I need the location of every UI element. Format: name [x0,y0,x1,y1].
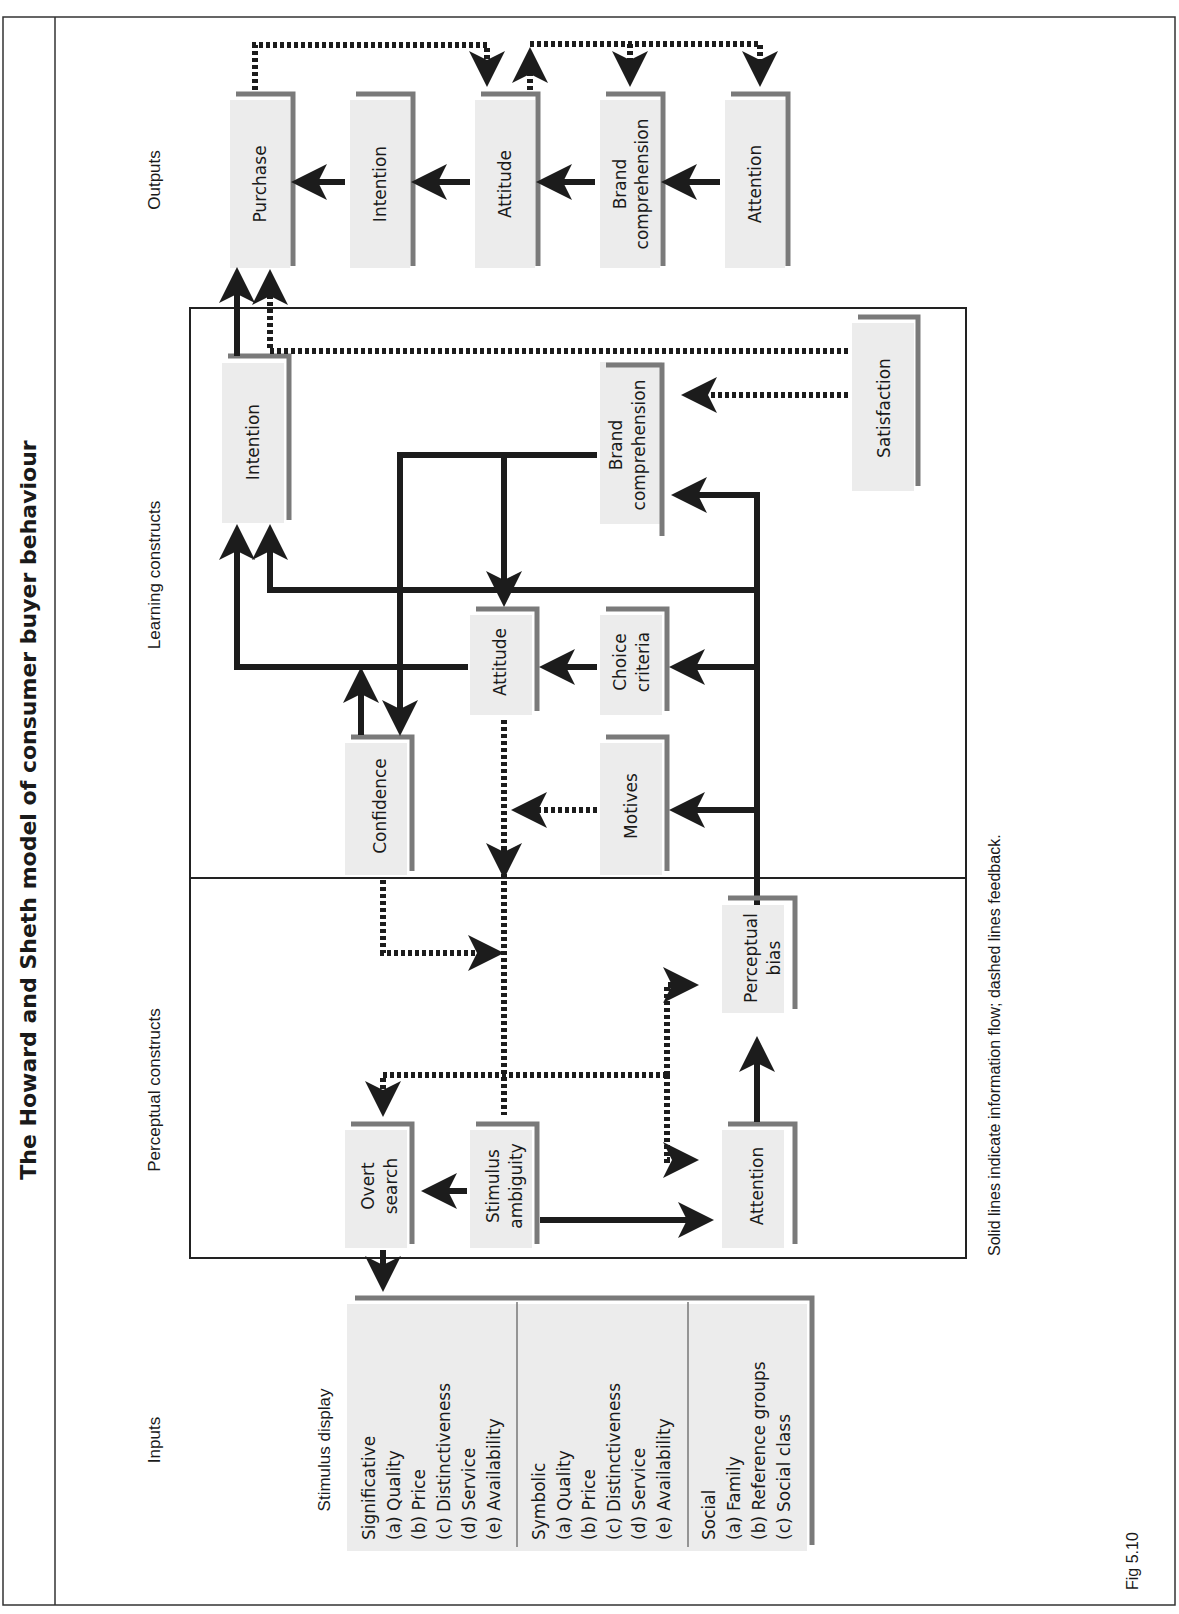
svg-text:Confidence: Confidence [370,758,390,854]
stimulus-display-heading: Stimulus display [315,1388,334,1511]
output-node-purchase: Purchase [230,94,293,268]
svg-text:search: search [381,1158,401,1214]
svg-text:Brand: Brand [610,159,630,210]
perceptual-node-perceptual-bias: Perceptual bias [722,898,795,1013]
feedback-to-attention [530,44,760,78]
svg-text:(b) Price: (b) Price [579,1469,599,1540]
svg-text:(d) Service: (d) Service [459,1448,479,1540]
section-label-perceptual: Perceptual constructs [145,1008,164,1171]
svg-text:(c) Distinctiveness: (c) Distinctiveness [604,1383,624,1540]
feedback-to-attention [667,1075,690,1160]
perceptual-node-stimulus-ambiguity: Stimulus ambiguity [470,1124,537,1248]
section-label-inputs: Inputs [145,1417,164,1463]
perceptual-node-attention: Attention [722,1124,795,1248]
svg-text:Intention: Intention [370,146,390,222]
svg-text:Overt: Overt [358,1162,378,1210]
diagram-title: The Howard and Sheth model of consumer b… [16,440,41,1180]
feedback-satisfaction-to-purchase [270,278,848,351]
svg-text:Intention: Intention [243,404,263,480]
svg-text:(c) Distinctiveness: (c) Distinctiveness [434,1383,454,1540]
learning-node-brand-comprehension: Brand comprehension [600,362,662,536]
svg-text:Significative: Significative [359,1436,379,1540]
svg-text:Attitude: Attitude [495,150,515,218]
perceptual-node-overt-search: Overt search [345,1124,412,1248]
section-label-outputs: Outputs [145,150,164,210]
svg-text:Satisfaction: Satisfaction [874,358,894,458]
svg-text:ambiguity: ambiguity [506,1143,526,1229]
svg-text:criteria: criteria [633,632,653,692]
learning-node-choice-criteria: Choice criteria [600,609,667,715]
svg-text:Perceptual: Perceptual [741,913,761,1003]
legend-note: Solid lines indicate information flow; d… [986,834,1003,1256]
constructs-area [190,308,966,1258]
svg-text:(a) Quality: (a) Quality [554,1450,574,1540]
figure-label: Fig 5.10 [1124,1532,1141,1590]
svg-text:(c) Social class: (c) Social class [774,1414,794,1540]
feedback-purchase-to-attitude [255,45,487,90]
learning-node-satisfaction: Satisfaction [852,317,918,491]
svg-text:bias: bias [764,940,784,975]
svg-text:(d) Service: (d) Service [629,1448,649,1540]
svg-text:(b) Reference groups: (b) Reference groups [749,1361,769,1540]
svg-text:Attitude: Attitude [490,628,510,696]
learning-node-attitude: Attitude [470,609,537,715]
svg-text:Choice: Choice [610,633,630,691]
arrow-bias-to-intention [270,533,757,590]
feedback-to-perceptual-bias [667,985,690,1075]
svg-text:(e) Availability: (e) Availability [484,1418,504,1540]
howard-sheth-diagram: The Howard and Sheth model of consumer b… [0,0,1179,1614]
svg-text:Stimulus: Stimulus [483,1149,503,1223]
svg-text:Brand: Brand [606,420,626,471]
svg-text:comprehension: comprehension [629,380,649,511]
svg-text:Symbolic: Symbolic [529,1463,549,1540]
svg-text:Attention: Attention [745,145,765,223]
svg-text:Social: Social [699,1490,719,1540]
learning-node-confidence: Confidence [345,737,412,875]
svg-text:Purchase: Purchase [250,145,270,222]
learning-node-motives: Motives [600,737,667,875]
learning-node-intention: Intention [222,356,289,523]
feedback-to-overt-search [383,1075,667,1108]
svg-text:(a) Quality: (a) Quality [384,1450,404,1540]
svg-text:comprehension: comprehension [632,119,652,250]
svg-text:(b) Price: (b) Price [409,1469,429,1540]
output-node-intention: Intention [350,94,413,268]
arrow-bias-to-brand [680,495,757,910]
output-node-attitude: Attitude [475,94,538,268]
svg-text:Motives: Motives [621,773,641,839]
svg-text:(a) Family: (a) Family [724,1456,744,1540]
svg-text:(e) Availability: (e) Availability [654,1418,674,1540]
svg-text:Attention: Attention [747,1147,767,1225]
output-node-brand-comprehension: Brand comprehension [600,94,663,268]
output-node-attention: Attention [725,94,788,268]
section-label-learning: Learning constructs [145,501,164,649]
feedback-confidence-to-stimulus [383,880,495,953]
